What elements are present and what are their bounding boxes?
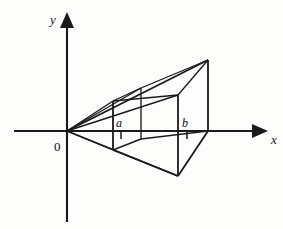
edge-apex-to-a-bottom-front (67, 131, 113, 150)
square-a-edge-bottom (113, 139, 141, 150)
tick-label-b: b (182, 116, 188, 130)
edge-a-to-b-bottom-front (113, 150, 178, 176)
edge-a-to-b-bottom-back (141, 131, 208, 139)
geometry-diagram: y x 0 a b (0, 0, 283, 229)
y-axis-arrowhead (60, 12, 74, 28)
square-b-edge-top (178, 60, 208, 95)
edge-apex-to-a-top-front (67, 101, 113, 131)
edge-a-to-b-top-back (141, 60, 208, 88)
figure-canvas: y x 0 a b (0, 0, 283, 229)
tick-label-a: a (116, 116, 122, 130)
x-axis-label: x (270, 132, 277, 147)
y-axis-label: y (48, 12, 56, 27)
square-b-edge-bottom (178, 131, 208, 176)
origin-label: 0 (54, 139, 61, 154)
x-axis-arrowhead (252, 124, 268, 138)
